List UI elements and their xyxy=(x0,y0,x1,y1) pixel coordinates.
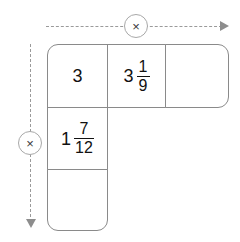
fraction-denominator: 12 xyxy=(74,139,94,156)
answer-input-area[interactable] xyxy=(166,45,228,107)
row-guide-arrowhead-icon xyxy=(220,21,229,31)
fraction: 1 9 xyxy=(137,59,150,94)
cell-top-row-3-answer-box[interactable] xyxy=(165,44,229,108)
cell-top-row-1[interactable]: 3 xyxy=(47,44,108,108)
cell-value: 3 1 9 xyxy=(123,59,149,94)
column-guide-arrowhead-icon xyxy=(26,219,36,228)
whole-number: 3 xyxy=(72,67,82,85)
multiply-icon: × xyxy=(26,137,34,150)
cell-top-row-2[interactable]: 3 1 9 xyxy=(107,44,166,108)
cell-left-column-2[interactable]: 1 7 12 xyxy=(47,107,108,170)
fraction-denominator: 9 xyxy=(138,77,149,94)
fraction: 7 12 xyxy=(74,121,94,156)
column-multiply-operator-badge: × xyxy=(18,131,42,155)
whole-number: 3 xyxy=(123,67,133,85)
whole-number: 1 xyxy=(61,130,71,148)
cell-value: 3 xyxy=(72,67,82,85)
cell-value: 1 7 12 xyxy=(61,121,94,156)
multiply-icon: × xyxy=(132,20,140,33)
fraction-numerator: 7 xyxy=(79,121,90,138)
row-multiply-operator-badge: × xyxy=(124,14,148,38)
worksheet-figure: × × 3 3 1 9 1 7 12 xyxy=(0,0,240,242)
answer-input-area[interactable] xyxy=(48,170,107,230)
cell-left-column-3-answer-box[interactable] xyxy=(47,169,108,231)
fraction-numerator: 1 xyxy=(138,59,149,76)
